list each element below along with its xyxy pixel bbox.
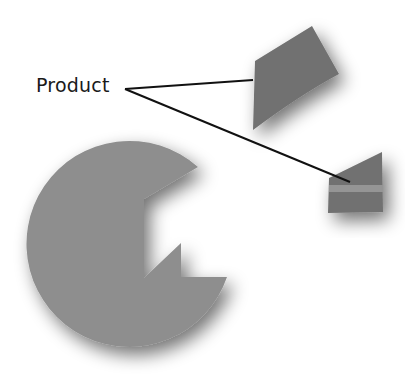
lower-exploded-slice <box>328 152 383 213</box>
callout-line-upper <box>125 80 253 89</box>
slice-highlight-band <box>329 185 383 192</box>
pie-body <box>26 141 227 347</box>
callout-label: Product <box>36 74 110 96</box>
exploded-pie-diagram: Product <box>0 0 408 377</box>
upper-exploded-slice <box>253 26 339 130</box>
diagram-graphic <box>0 0 408 377</box>
